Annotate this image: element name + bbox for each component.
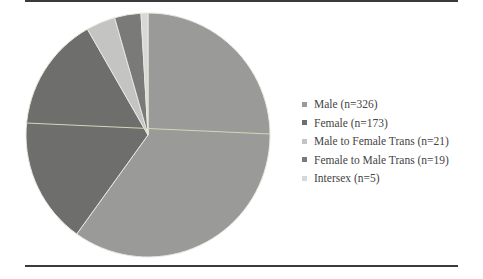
legend-swatch-icon — [302, 157, 307, 162]
legend-item: Female (n=173) — [302, 114, 449, 133]
top-rule — [25, 0, 458, 2]
legend-item: Female to Male Trans (n=19) — [302, 151, 449, 170]
legend-swatch-icon — [302, 120, 307, 125]
pie-chart — [24, 11, 272, 259]
legend-label: Intersex (n=5) — [314, 172, 380, 184]
bottom-rule — [25, 265, 458, 267]
legend-swatch-icon — [302, 176, 307, 181]
legend-item: Male to Female Trans (n=21) — [302, 132, 449, 151]
legend-swatch-icon — [302, 102, 307, 107]
legend-label: Female (n=173) — [314, 117, 388, 129]
legend-item: Intersex (n=5) — [302, 169, 449, 188]
legend-item: Male (n=326) — [302, 95, 449, 114]
chart-legend: Male (n=326) Female (n=173) Male to Fema… — [302, 95, 449, 188]
legend-label: Male to Female Trans (n=21) — [314, 135, 449, 147]
legend-label: Male (n=326) — [314, 98, 378, 110]
legend-swatch-icon — [302, 139, 307, 144]
legend-label: Female to Male Trans (n=19) — [314, 154, 449, 166]
